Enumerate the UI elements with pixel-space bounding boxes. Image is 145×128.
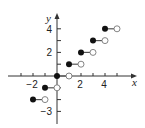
closed-endpoint xyxy=(102,26,108,32)
open-endpoint xyxy=(78,61,84,67)
step-segments xyxy=(30,26,120,103)
y-tick-label: 4 xyxy=(46,24,52,35)
open-endpoint xyxy=(114,26,120,32)
closed-endpoint xyxy=(66,61,72,67)
y-tick-label: 2 xyxy=(46,47,52,58)
x-tick-label: −2 xyxy=(26,79,38,90)
closed-endpoint xyxy=(42,85,48,91)
open-endpoint xyxy=(54,85,60,91)
closed-endpoint xyxy=(54,73,60,79)
open-endpoint xyxy=(90,49,96,55)
x-tick-label: 2 xyxy=(77,79,83,90)
y-axis-arrow-icon xyxy=(55,13,60,19)
closed-endpoint xyxy=(90,38,96,44)
x-axis-label: x xyxy=(131,76,137,88)
step-function-chart: −22442−3xy xyxy=(0,0,145,128)
closed-endpoint xyxy=(30,97,36,103)
y-axis-label: y xyxy=(45,12,51,24)
open-endpoint xyxy=(66,73,72,79)
closed-endpoint xyxy=(78,49,84,55)
open-endpoint xyxy=(42,97,48,103)
x-tick-label: 4 xyxy=(101,79,107,90)
y-tick-label: −3 xyxy=(41,106,53,117)
open-endpoint xyxy=(102,38,108,44)
